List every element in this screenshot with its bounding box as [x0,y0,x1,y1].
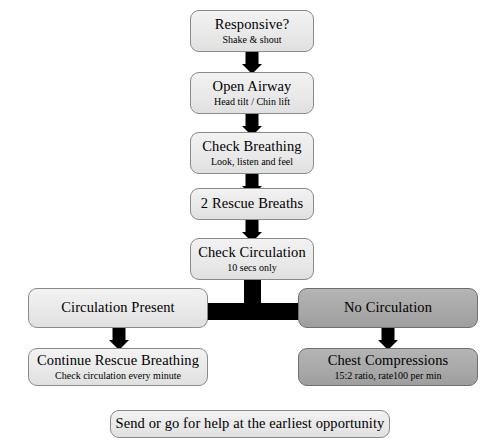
node-send-for-help[interactable]: Send or go for help at the earliest oppo… [110,410,390,438]
flowchart-canvas: Responsive? Shake & shout Open Airway He… [0,0,498,442]
node-send-for-help-title: Send or go for help at the earliest oppo… [116,416,385,431]
node-check-breathing-subtitle: Look, listen and feel [211,156,293,168]
node-check-circulation-subtitle: 10 secs only [227,262,276,274]
node-chest-compressions-title: Chest Compressions [328,353,449,368]
node-chest-compressions-subtitle: 15:2 ratio, rate100 per min [335,370,442,382]
connector-circulation-present-to-continue-rescue-breathing [105,328,133,350]
node-check-circulation-title: Check Circulation [198,245,306,260]
node-no-circulation[interactable]: No Circulation [298,288,478,328]
node-chest-compressions[interactable]: Chest Compressions 15:2 ratio, rate100 p… [298,348,478,386]
node-check-breathing-title: Check Breathing [202,139,301,154]
node-open-airway[interactable]: Open Airway Head tilt / Chin lift [190,72,314,114]
node-check-breathing[interactable]: Check Breathing Look, listen and feel [190,132,314,174]
node-no-circulation-title: No Circulation [344,300,432,315]
node-continue-rescue-breathing-subtitle: Check circulation every minute [55,370,181,382]
node-responsive-subtitle: Shake & shout [223,34,282,46]
node-circulation-present[interactable]: Circulation Present [28,288,208,328]
node-continue-rescue-breathing[interactable]: Continue Rescue Breathing Check circulat… [28,348,208,386]
node-rescue-breaths[interactable]: 2 Rescue Breaths [190,188,314,220]
connector-responsive-to-open-airway [238,52,266,74]
node-responsive[interactable]: Responsive? Shake & shout [190,10,314,52]
node-responsive-title: Responsive? [215,17,289,32]
node-circulation-present-title: Circulation Present [61,300,174,315]
node-open-airway-title: Open Airway [213,79,292,94]
node-rescue-breaths-title: 2 Rescue Breaths [201,196,303,211]
node-continue-rescue-breathing-title: Continue Rescue Breathing [37,353,199,368]
node-check-circulation[interactable]: Check Circulation 10 secs only [190,238,314,280]
connector-no-circulation-to-chest-compressions [374,328,402,350]
node-open-airway-subtitle: Head tilt / Chin lift [214,96,290,108]
connector-split-tee-bar [198,303,308,320]
